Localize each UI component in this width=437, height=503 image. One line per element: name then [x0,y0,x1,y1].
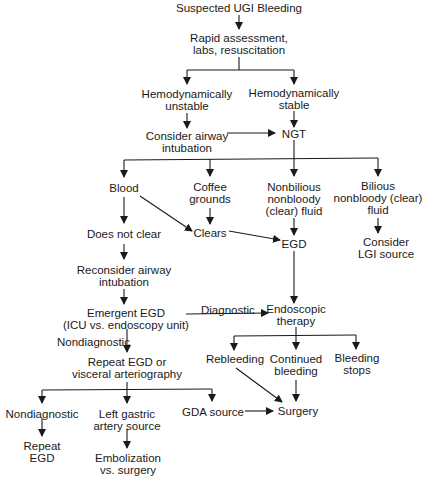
node-text: intubation [146,142,228,154]
node-text: Endoscopic [266,303,325,315]
node-text: Consider [358,236,414,248]
node-text: Does not clear [87,228,161,240]
node-hemodynamically-unstable: Hemodynamically unstable [142,88,233,112]
node-text: Left gastric [93,408,160,420]
node-text: Hemodynamically [249,87,340,99]
node-text: (ICU vs. endoscopy unit) [63,319,189,331]
node-nondiagnostic: Nondiagnostic [6,408,79,420]
node-text: Bleeding [335,352,380,364]
node-text: fluid [334,204,423,216]
edge-label-diagnostic: Diagnostic [201,304,255,316]
node-text: Surgery [278,405,318,417]
node-text: GDA source [182,406,244,418]
node-text: therapy [266,315,325,327]
node-text: EGD [282,238,307,250]
node-coffee-grounds: Coffee grounds [189,181,231,205]
node-rapid-assessment: Rapid assessment, labs, resuscitation [190,32,288,56]
node-gda-source: GDA source [182,406,244,418]
node-text: Coffee [189,181,231,193]
node-text: Continued [270,353,322,365]
node-rebleeding: Rebleeding [206,353,264,365]
node-consider-lgi-source: Consider LGI source [358,236,414,260]
node-text: NGT [282,128,306,140]
node-does-not-clear: Does not clear [87,228,161,240]
node-egd: EGD [282,238,307,250]
node-repeat-egd: Repeat EGD [23,440,60,464]
node-text: Repeat EGD or [72,356,182,368]
node-text: Reconsider airway [77,264,172,276]
node-text: Bilious [334,180,423,192]
node-text: bleeding [270,365,322,377]
node-repeat-egd-or-arteriography: Repeat EGD or visceral arteriography [72,356,182,380]
node-text: Hemodynamically [142,88,233,100]
node-ngt: NGT [282,128,306,140]
node-text: Embolization [95,452,161,464]
node-reconsider-airway-intubation: Reconsider airway intubation [77,264,172,288]
node-text: Suspected UGI Bleeding [176,2,302,14]
node-surgery: Surgery [278,405,318,417]
node-text: nonbloody [266,193,323,205]
node-text: grounds [189,193,231,205]
node-text: EGD [23,452,60,464]
node-nonbilious-nonbloody-fluid: Nonbilious nonbloody (clear) fluid [266,181,323,217]
node-text: Repeat [23,440,60,452]
node-text: Emergent EGD [63,307,189,319]
node-consider-airway-intubation: Consider airway intubation [146,130,228,154]
node-text: intubation [77,276,172,288]
node-suspected-ugi-bleeding: Suspected UGI Bleeding [176,2,302,14]
node-continued-bleeding: Continued bleeding [270,353,322,377]
node-bleeding-stops: Bleeding stops [335,352,380,376]
node-text: Blood [109,182,138,194]
node-clears: Clears [193,227,226,239]
node-text: vs. surgery [95,464,161,476]
node-text: unstable [142,100,233,112]
node-text: Nondiagnostic [6,408,79,420]
node-text: Rebleeding [206,353,264,365]
node-left-gastric-artery-source: Left gastric artery source [93,408,160,432]
node-text: visceral arteriography [72,368,182,380]
node-text: Rapid assessment, [190,32,288,44]
edge-label-nondiagnostic: Nondiagnostic [57,336,130,348]
node-text: stable [249,99,340,111]
node-text: LGI source [358,248,414,260]
node-endoscopic-therapy: Endoscopic therapy [266,303,325,327]
node-blood: Blood [109,182,138,194]
node-text: stops [335,364,380,376]
node-hemodynamically-stable: Hemodynamically stable [249,87,340,111]
node-text: nonbloody (clear) [334,192,423,204]
node-text: labs, resuscitation [190,44,288,56]
node-text: artery source [93,420,160,432]
node-bilious-nonbloody-fluid: Bilious nonbloody (clear) fluid [334,180,423,216]
node-embolization-vs-surgery: Embolization vs. surgery [95,452,161,476]
node-text: Clears [193,227,226,239]
node-text: (clear) fluid [266,205,323,217]
node-text: Consider airway [146,130,228,142]
node-emergent-egd: Emergent EGD (ICU vs. endoscopy unit) [63,307,189,331]
node-text: Nonbilious [266,181,323,193]
